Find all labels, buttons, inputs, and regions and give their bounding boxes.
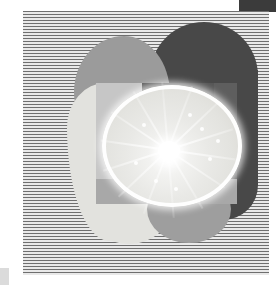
citrus-slice (96, 83, 246, 213)
artwork-canvas (0, 0, 276, 285)
citrus-pip (142, 123, 146, 127)
citrus-pip (200, 127, 204, 131)
citrus-pip (174, 187, 178, 191)
citrus-pip (208, 157, 212, 161)
citrus-pip (188, 113, 192, 117)
citrus-pip (216, 139, 220, 143)
corner-smudge (0, 268, 9, 285)
citrus-pip (134, 161, 138, 165)
citrus-core (158, 141, 180, 160)
citrus-pip (154, 179, 158, 183)
